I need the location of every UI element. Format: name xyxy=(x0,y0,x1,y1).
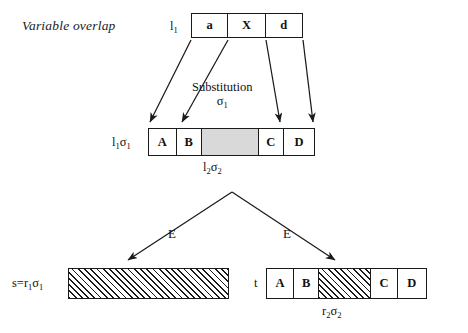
right-cell-d: D xyxy=(398,269,426,298)
mid-cell-b: B xyxy=(177,129,202,155)
top-term-label: l1 xyxy=(170,19,178,34)
left-cell-hatched xyxy=(69,269,228,298)
substitution-title: Substitution xyxy=(192,80,252,94)
top-cell-a: a xyxy=(192,14,228,37)
right-term-box: A B C D xyxy=(266,268,427,299)
substitution-arrow-1 xyxy=(150,40,191,122)
substitution-symbol: σ1 xyxy=(192,94,252,108)
rewrite-label-right: E xyxy=(283,226,291,242)
mid-term-box: A B C D xyxy=(148,128,315,156)
right-cell-a: A xyxy=(267,269,294,298)
mid-term-sublabel: l2σ2 xyxy=(203,160,222,175)
left-term-label: s=r1σ1 xyxy=(12,276,43,291)
right-cell-b: B xyxy=(294,269,319,298)
right-term-sublabel: r2σ2 xyxy=(322,304,341,319)
substitution-annotation: Substitution σ1 xyxy=(192,80,252,109)
left-term-box xyxy=(68,268,229,299)
right-cell-c: C xyxy=(371,269,397,298)
substitution-arrow-4 xyxy=(303,40,313,122)
rewrite-arrow-left xyxy=(128,192,232,260)
mid-cell-a: A xyxy=(149,129,177,155)
mid-cell-shaded xyxy=(202,129,259,155)
top-cell-x: X xyxy=(228,14,265,37)
rewrite-label-left: E xyxy=(168,226,176,242)
top-term-box: a X d xyxy=(191,13,303,38)
diagram-canvas: Variable overlap l1 a X d Substitution σ… xyxy=(0,0,468,333)
right-term-label: t xyxy=(254,276,257,291)
mid-cell-c: C xyxy=(259,129,284,155)
figure-caption: Variable overlap xyxy=(22,18,116,34)
top-cell-d: d xyxy=(266,14,302,37)
mid-cell-d: D xyxy=(284,129,314,155)
rewrite-arrows xyxy=(128,192,335,260)
substitution-arrow-3 xyxy=(266,40,280,122)
right-cell-hatched xyxy=(319,269,371,298)
mid-term-label: l1σ1 xyxy=(112,135,131,150)
